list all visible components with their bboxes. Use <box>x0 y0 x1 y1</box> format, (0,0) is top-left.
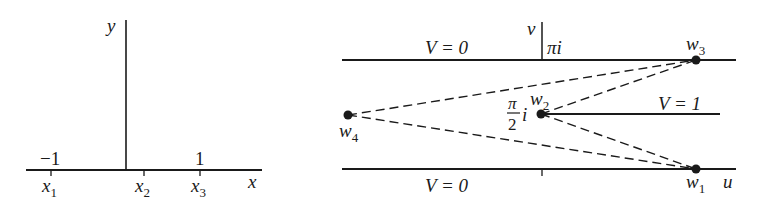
tick-label-one: 1 <box>195 148 205 169</box>
ray-w2-w1 <box>541 114 696 169</box>
point-label-x3: x3 <box>190 175 206 200</box>
w-plane: v u πi V = 0 V = 0 V = 1 π 2 i w1 w2 w3 … <box>339 18 736 196</box>
bottom-line-label: V = 0 <box>425 175 469 196</box>
half-pi-i: i <box>522 104 527 125</box>
top-line-label: V = 0 <box>425 37 469 58</box>
point-label-w2: w2 <box>530 88 549 113</box>
conformal-map-diagram: y x −1 1 x1 x2 x3 v u πi V = 0 V = 0 V <box>0 0 764 210</box>
half-pi-i-label: π 2 i <box>507 94 527 134</box>
pi-i-label: πi <box>547 37 562 58</box>
y-axis-label: y <box>105 15 116 36</box>
middle-line-label: V = 1 <box>658 93 701 114</box>
tick-label-minus-one: −1 <box>40 148 60 169</box>
point-label-w1: w1 <box>686 171 705 196</box>
point-label-x2: x2 <box>134 175 150 200</box>
point-label-x1: x1 <box>41 175 57 200</box>
point-label-w3: w3 <box>686 33 705 58</box>
half-pi-numerator: π <box>508 94 517 113</box>
v-axis-label: v <box>527 18 536 39</box>
half-pi-denominator: 2 <box>508 115 517 134</box>
point-w4 <box>344 111 353 120</box>
z-plane: y x −1 1 x1 x2 x3 <box>26 15 262 200</box>
point-label-w4: w4 <box>339 120 359 145</box>
u-axis-label: u <box>723 171 733 192</box>
x-axis-label: x <box>247 171 257 192</box>
